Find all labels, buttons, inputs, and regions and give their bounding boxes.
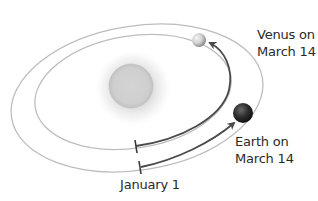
- venus-label: Venus on March 14: [257, 26, 316, 60]
- earth-start-tick: [139, 161, 141, 174]
- earth-label: Earth on March 14: [235, 133, 294, 167]
- venus-label-line2: March 14: [257, 43, 316, 60]
- earth-planet: [233, 103, 253, 123]
- venus-planet: [192, 33, 206, 47]
- start-date-text: January 1: [120, 176, 180, 193]
- sun: [93, 48, 173, 128]
- venus-label-line1: Venus on: [257, 26, 316, 43]
- earth-label-line1: Earth on: [235, 133, 294, 150]
- earth-label-line2: March 14: [235, 150, 294, 167]
- venus-start-tick: [135, 140, 137, 153]
- start-date-label: January 1: [120, 176, 180, 193]
